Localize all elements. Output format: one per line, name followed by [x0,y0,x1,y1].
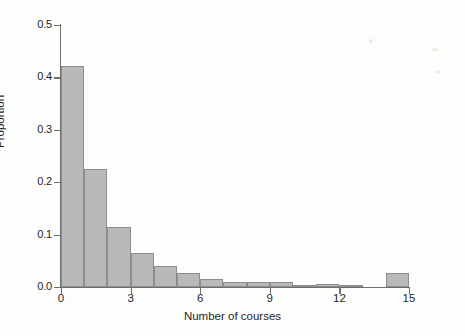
histogram-bar [200,279,223,287]
histogram-bar [177,273,200,287]
histogram-chart: 0.00.10.20.30.40.5 03691215 Number of co… [0,0,465,336]
histogram-bar [107,227,130,287]
plot-area [61,25,409,287]
x-tick-label: 3 [111,292,151,304]
histogram-bar [84,169,107,287]
histogram-bar [154,266,177,287]
x-axis-title: Number of courses [0,310,465,322]
histogram-bar [386,273,409,287]
scan-speckle [432,48,438,51]
x-tick-label: 15 [389,292,429,304]
y-tick-mark [54,130,61,131]
y-tick-mark [54,235,61,236]
y-tick-label: 0.3 [8,123,52,135]
histogram-bar [247,282,270,287]
histogram-bar [270,282,293,287]
histogram-bar [339,285,362,287]
histogram-bar [223,282,246,287]
y-tick-mark [54,77,61,78]
x-tick-label: 6 [180,292,220,304]
histogram-bar [61,66,84,287]
histogram-bar [131,253,154,287]
x-tick-label: 12 [319,292,359,304]
y-tick-label: 0.1 [8,228,52,240]
y-tick-label: 0.0 [8,280,52,292]
scan-speckle [436,70,440,73]
y-tick-label: 0.2 [8,175,52,187]
x-tick-label: 0 [41,292,81,304]
y-tick-mark [54,182,61,183]
y-axis-title: Proportion [0,95,6,148]
x-axis-line [60,287,410,288]
x-tick-label: 9 [250,292,290,304]
histogram-bar [316,284,339,287]
y-tick-mark [54,25,61,26]
y-tick-mark [54,287,61,288]
histogram-bar [293,285,316,287]
y-tick-label: 0.5 [8,18,52,30]
y-tick-label: 0.4 [8,70,52,82]
